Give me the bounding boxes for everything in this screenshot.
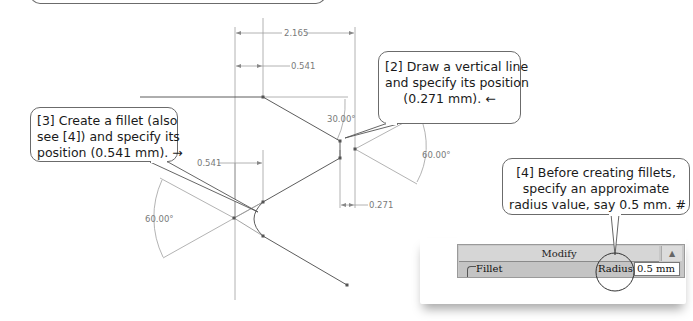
radius-input[interactable]: 0.5 mm: [634, 262, 680, 276]
callout-step3-line2: see [4]) and specify its: [37, 129, 171, 145]
modify-panel-title[interactable]: Modify: [459, 246, 659, 262]
callout-step2-line1: [2] Draw a vertical line: [385, 59, 514, 75]
callout-step3: [3] Create a fillet (also see [4]) and s…: [30, 107, 178, 162]
dim-angle-right[interactable]: 60.00°: [422, 150, 451, 160]
callout-step4-line2: specify an approximate: [509, 181, 683, 197]
dim-overall-width[interactable]: 2.165: [284, 28, 308, 38]
dim-top-offset[interactable]: 0.541: [291, 61, 315, 71]
callout-step4-line3: radius value, say 0.5 mm. #: [509, 197, 683, 213]
callout-pointers: [150, 124, 398, 212]
callout-step4-line1: [4] Before creating fillets,: [509, 165, 683, 181]
dim-right-offset[interactable]: 0.271: [369, 200, 393, 210]
fillet-icon: [467, 266, 476, 277]
callout-step3-line3: position (0.541 mm). →: [37, 145, 171, 161]
callout-step2-line3: (0.271 mm). ←: [385, 91, 514, 107]
callout-step2-line2: and specify its position: [385, 75, 514, 91]
callout-step4: [4] Before creating fillets, specify an …: [502, 158, 690, 215]
sketch-points: [233, 96, 357, 287]
dim-angle-left[interactable]: 60.00°: [145, 214, 174, 224]
dim-angle-top[interactable]: 30.00°: [327, 114, 356, 124]
callout-step2: [2] Draw a vertical line and specify its…: [378, 51, 521, 124]
radius-label: Radius:: [598, 263, 636, 274]
fillet-label: Fillet: [476, 263, 502, 274]
callout-step3-line1: [3] Create a fillet (also: [37, 113, 171, 129]
collapse-arrow-icon[interactable]: ▲: [661, 246, 682, 261]
dim-left-offset[interactable]: 0.541: [197, 158, 221, 168]
